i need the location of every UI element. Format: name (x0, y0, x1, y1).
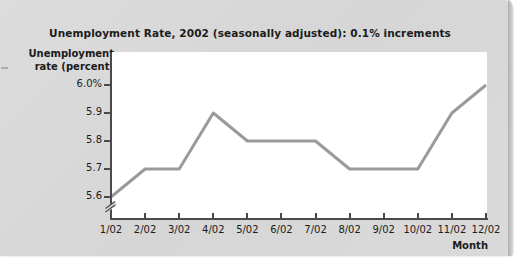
x-tick-label: 12/02 (464, 224, 508, 235)
x-tick-mark (280, 213, 282, 220)
x-tick-mark (178, 213, 180, 220)
chart-title: Unemployment Rate, 2002 (seasonally adju… (0, 27, 500, 39)
line-series (111, 52, 487, 219)
x-tick-mark (451, 213, 453, 220)
y-tick-label: 5.6 (36, 190, 102, 201)
x-axis-label: Month (400, 240, 488, 251)
y-tick-mark (104, 196, 111, 198)
x-tick-mark (485, 213, 487, 220)
y-tick-label: 5.8 (36, 134, 102, 145)
page-margin-mark (1, 67, 8, 69)
plot-area (111, 52, 487, 219)
page-edge-shadow (508, 0, 513, 256)
y-tick-mark (104, 84, 111, 86)
x-tick-mark (315, 213, 317, 220)
x-tick-mark (383, 213, 385, 220)
y-tick-label: 5.7 (36, 162, 102, 173)
x-tick-mark (349, 213, 351, 220)
x-tick-mark (212, 213, 214, 220)
y-tick-mark (104, 112, 111, 114)
x-axis-line (110, 218, 488, 220)
x-tick-mark (144, 213, 146, 220)
y-tick-mark (104, 168, 111, 170)
x-tick-mark (246, 213, 248, 220)
y-tick-label: 6.0% (36, 78, 102, 89)
x-tick-mark (110, 213, 112, 220)
screenshot-root: Unemployment Rate, 2002 (seasonally adju… (0, 0, 524, 259)
y-tick-mark (104, 140, 111, 142)
x-tick-mark (417, 213, 419, 220)
y-axis-line (110, 52, 112, 219)
y-axis-label: Unemployment rate (percent) (12, 48, 114, 73)
y-tick-label: 5.9 (36, 106, 102, 117)
